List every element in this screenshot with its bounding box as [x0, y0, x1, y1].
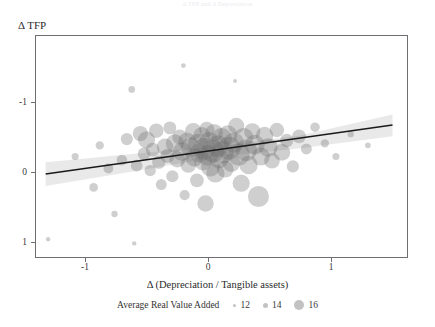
data-point — [166, 170, 178, 182]
legend-bubble-icon — [263, 303, 268, 308]
data-point — [72, 153, 79, 160]
data-point — [89, 183, 98, 192]
data-point — [149, 123, 163, 137]
x-axis-title: Δ (Depreciation / Tangible assets) — [0, 278, 435, 291]
y-axis-tick — [31, 242, 35, 243]
scatter-plot-svg — [36, 36, 407, 257]
data-point — [96, 141, 104, 149]
data-point — [156, 179, 167, 190]
x-axis-tick-label: -1 — [70, 262, 100, 273]
figure-caption: Δ TFP and Δ Depreciation — [0, 0, 435, 9]
y-axis-tick — [31, 172, 35, 173]
data-point — [111, 211, 117, 217]
data-point — [46, 237, 50, 241]
y-axis-tick — [31, 102, 35, 103]
y-axis-title: Δ TFP — [18, 19, 46, 32]
legend-item[interactable]: 14 — [263, 300, 282, 310]
legend-item-label: 14 — [272, 300, 282, 310]
legend-item-label: 16 — [308, 300, 318, 310]
legend-item-label: 12 — [240, 300, 250, 310]
data-point — [248, 186, 269, 207]
data-point — [132, 241, 136, 245]
y-axis-tick-label: 1 — [5, 237, 27, 247]
legend-bubble-icon — [294, 300, 304, 310]
x-axis-tick-label: 0 — [193, 262, 223, 273]
legend-items: 121416 — [233, 300, 318, 310]
data-point — [197, 195, 213, 211]
y-axis-tick-label: 0 — [5, 167, 27, 177]
figure-container: Δ TFP and Δ Depreciation Δ TFP 10-1-101 … — [0, 0, 435, 327]
legend-item[interactable]: 12 — [233, 300, 250, 310]
data-point — [332, 153, 339, 160]
data-point — [292, 129, 306, 143]
legend-title: Average Real Value Added — [117, 300, 219, 310]
legend-bubble-icon — [233, 304, 236, 307]
data-point — [190, 174, 204, 188]
data-point — [287, 160, 299, 172]
data-point — [270, 123, 284, 137]
data-point — [181, 63, 186, 68]
legend-item[interactable]: 16 — [294, 300, 318, 310]
data-point — [301, 143, 312, 154]
plot-area — [35, 35, 408, 258]
data-point — [321, 139, 329, 147]
data-point — [365, 143, 371, 149]
data-point — [233, 175, 250, 192]
data-point — [128, 86, 135, 93]
x-axis-tick-label: 1 — [316, 262, 346, 273]
y-axis-tick-label: -1 — [5, 97, 27, 107]
size-legend: Average Real Value Added 121416 — [0, 300, 435, 310]
data-point — [121, 133, 133, 145]
data-point — [233, 79, 237, 83]
data-point — [310, 122, 319, 131]
data-point — [180, 190, 190, 200]
